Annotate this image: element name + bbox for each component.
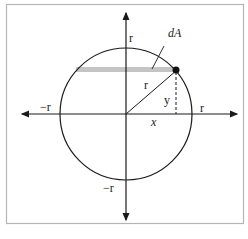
- label-x-right: r: [200, 101, 204, 115]
- dA-leader: [152, 46, 164, 69]
- radius-line: [126, 70, 177, 114]
- label-radius: r: [144, 78, 148, 92]
- label-y-top: r: [129, 31, 133, 45]
- label-y-bottom: −r: [103, 181, 114, 195]
- label-y-coord: y: [164, 93, 170, 107]
- point-on-circle: [173, 67, 180, 74]
- label-dA: dA: [168, 26, 182, 40]
- label-x-left: −r: [40, 100, 51, 114]
- label-x-coord: x: [150, 115, 157, 129]
- circle-diagram: r −r −r r r x y dA: [0, 0, 248, 239]
